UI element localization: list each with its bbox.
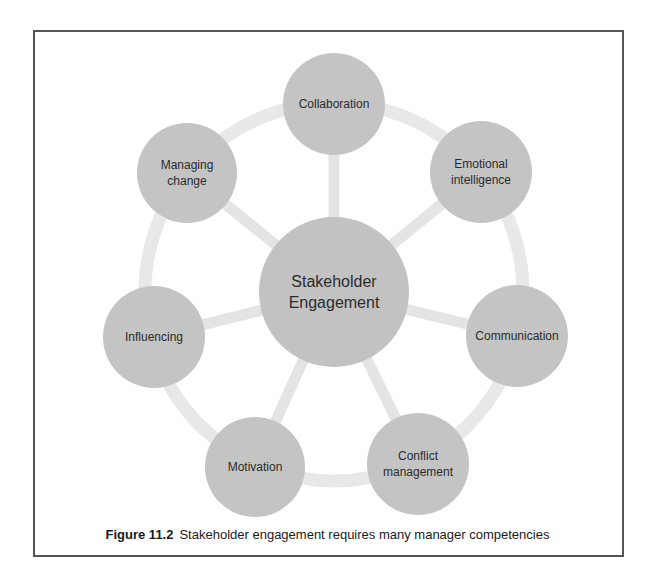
node-label-collaboration: Collaboration: [283, 53, 385, 155]
node-label-communication: Communication: [466, 285, 568, 387]
node-label-influencing: Influencing: [103, 286, 205, 388]
node-label-motivation: Motivation: [205, 417, 305, 517]
caption-text: Stakeholder engagement requires many man…: [179, 527, 549, 542]
node-label-managing-change: Managing change: [137, 123, 237, 223]
figure-number: Figure 11.2: [106, 527, 174, 542]
node-label-emotional-intelligence: Emotional intelligence: [430, 121, 532, 223]
figure-caption: Figure 11.2Stakeholder engagement requir…: [33, 527, 622, 542]
center-node-label: Stakeholder Engagement: [259, 217, 409, 367]
node-label-conflict-management: Conflict management: [367, 413, 469, 515]
